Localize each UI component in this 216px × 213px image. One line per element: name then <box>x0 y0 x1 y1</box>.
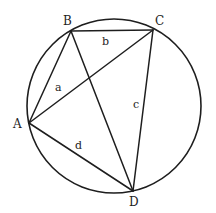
segment-ab <box>29 31 71 123</box>
circumscribed-circle <box>27 19 201 193</box>
segment-label-a: a <box>55 81 62 94</box>
cyclic-quadrilateral-diagram: a b c d A B C D <box>0 0 216 213</box>
vertex-label-a: A <box>12 117 22 131</box>
segment-label-c: c <box>133 98 139 111</box>
segment-ad <box>29 123 133 191</box>
segment-label-b: b <box>102 35 109 48</box>
segment-bd <box>71 31 133 191</box>
vertex-label-c: C <box>155 14 164 28</box>
segment-label-d: d <box>75 139 82 152</box>
vertex-label-d: D <box>129 195 139 209</box>
segment-bc <box>71 30 153 31</box>
vertex-label-b: B <box>63 14 72 28</box>
